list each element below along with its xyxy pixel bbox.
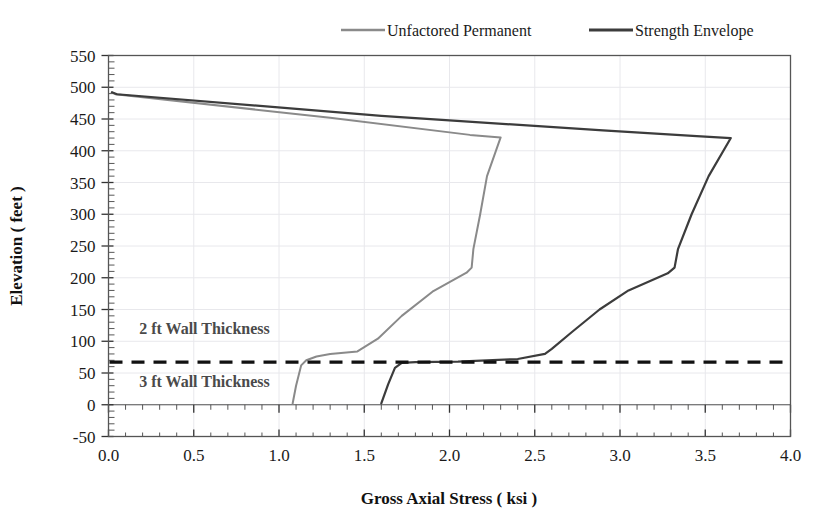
y-tick-label: 50 — [79, 364, 96, 383]
y-tick-label: 350 — [70, 174, 96, 193]
x-tick-label: 2.0 — [439, 446, 460, 465]
x-tick-label: 1.5 — [354, 446, 375, 465]
x-tick-label: 0.0 — [98, 446, 119, 465]
y-tick-label: 500 — [70, 78, 96, 97]
y-tick-label: 200 — [70, 269, 96, 288]
y-tick-label: 0 — [87, 396, 96, 415]
y-axis-title: Elevation ( feet ) — [7, 186, 26, 305]
y-tick-label: -50 — [73, 428, 96, 447]
chart-background — [0, 0, 832, 522]
y-tick-label: 450 — [70, 110, 96, 129]
y-tick-label: 100 — [70, 332, 96, 351]
legend-label-strength-envelope: Strength Envelope — [635, 22, 754, 40]
x-tick-label: 1.0 — [268, 446, 289, 465]
annotation-label-3ft: 3 ft Wall Thickness — [139, 373, 270, 390]
axial-stress-elevation-chart: 0.00.51.01.52.02.53.03.54.0 -50050100150… — [0, 0, 832, 522]
x-tick-label: 3.0 — [609, 446, 630, 465]
y-tick-label: 550 — [70, 47, 96, 66]
y-tick-label: 400 — [70, 142, 96, 161]
legend-label-unfactored-permanent: Unfactored Permanent — [387, 22, 532, 39]
x-axis-tick-labels: 0.00.51.01.52.02.53.03.54.0 — [98, 446, 801, 465]
y-tick-label: 300 — [70, 205, 96, 224]
y-tick-label: 150 — [70, 301, 96, 320]
x-tick-label: 2.5 — [524, 446, 545, 465]
x-tick-label: 0.5 — [183, 446, 204, 465]
x-tick-label: 3.5 — [695, 446, 716, 465]
x-axis-title: Gross Axial Stress ( ksi ) — [361, 489, 537, 508]
y-tick-label: 250 — [70, 237, 96, 256]
annotation-label-2ft: 2 ft Wall Thickness — [139, 320, 270, 337]
chart-container: 0.00.51.01.52.02.53.03.54.0 -50050100150… — [0, 0, 832, 522]
x-tick-label: 4.0 — [780, 446, 801, 465]
